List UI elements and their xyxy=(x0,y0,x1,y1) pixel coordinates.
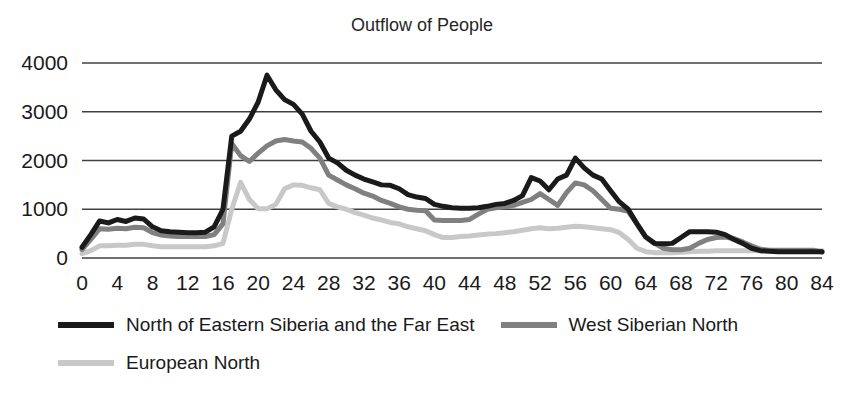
legend-row: European North xyxy=(58,344,844,382)
x-axis-tick-label: 56 xyxy=(564,271,587,294)
x-axis-tick-label: 16 xyxy=(211,271,234,294)
x-axis-tick-label: 72 xyxy=(705,271,728,294)
line-chart-plot: 0100020003000400004812162024283236404448… xyxy=(0,0,844,300)
y-axis-tick-label: 4000 xyxy=(21,51,68,74)
series-line xyxy=(82,75,822,251)
x-axis-tick-label: 36 xyxy=(387,271,410,294)
x-axis-tick-label: 4 xyxy=(111,271,123,294)
chart-root: Outflow of People 0100020003000400004812… xyxy=(0,0,844,405)
y-axis-tick-label: 2000 xyxy=(21,149,68,172)
x-axis-tick-label: 20 xyxy=(247,271,270,294)
x-axis-tick-label: 0 xyxy=(76,271,88,294)
chart-legend: North of Eastern Siberia and the Far Eas… xyxy=(58,306,844,382)
x-axis-tick-label: 32 xyxy=(352,271,375,294)
y-axis-tick-label: 0 xyxy=(56,246,68,269)
legend-color-swatch xyxy=(501,322,557,328)
y-axis-tick-label: 3000 xyxy=(21,100,68,123)
legend-row: North of Eastern Siberia and the Far Eas… xyxy=(58,306,844,344)
legend-label: North of Eastern Siberia and the Far Eas… xyxy=(126,314,475,336)
x-axis-tick-label: 80 xyxy=(775,271,798,294)
x-axis-tick-label: 60 xyxy=(599,271,622,294)
x-axis-tick-label: 24 xyxy=(282,271,306,294)
y-axis-tick-label: 1000 xyxy=(21,197,68,220)
x-axis-tick-label: 84 xyxy=(810,271,834,294)
x-axis-tick-label: 28 xyxy=(317,271,340,294)
x-axis-tick-label: 68 xyxy=(669,271,692,294)
x-axis-tick-label: 52 xyxy=(528,271,551,294)
x-axis-tick-label: 64 xyxy=(634,271,658,294)
legend-item-west-siberian-north[interactable]: West Siberian North xyxy=(501,314,739,336)
legend-label: European North xyxy=(126,352,260,374)
x-axis-tick-label: 76 xyxy=(740,271,763,294)
legend-item-north-of-eastern-siberia-and-the-far-east[interactable]: North of Eastern Siberia and the Far Eas… xyxy=(58,314,475,336)
x-axis-tick-label: 12 xyxy=(176,271,199,294)
legend-color-swatch xyxy=(58,360,114,366)
legend-item-european-north[interactable]: European North xyxy=(58,352,260,374)
x-axis-tick-label: 8 xyxy=(147,271,159,294)
x-axis-tick-label: 40 xyxy=(423,271,446,294)
legend-label: West Siberian North xyxy=(569,314,739,336)
x-axis-tick-label: 48 xyxy=(493,271,516,294)
legend-color-swatch xyxy=(58,322,114,328)
x-axis-tick-label: 44 xyxy=(458,271,482,294)
